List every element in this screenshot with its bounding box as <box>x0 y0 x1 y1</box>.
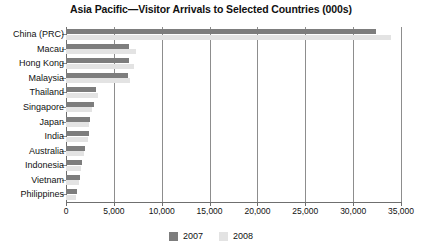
gridline <box>162 27 163 202</box>
bar-2007 <box>66 131 89 136</box>
bar-2008 <box>66 93 98 98</box>
bar-2007 <box>66 175 80 180</box>
x-axis-tick-label: 20,000 <box>244 206 270 216</box>
gridline <box>401 27 402 202</box>
bar-2007 <box>66 44 129 49</box>
legend-label: 2008 <box>233 231 253 241</box>
x-axis-line <box>66 202 402 203</box>
category-label: Australia <box>0 146 64 156</box>
category-label: Philippines <box>0 189 64 199</box>
bar-2008 <box>66 35 391 40</box>
bar-chart: Asia Pacific—Visitor Arrivals to Selecte… <box>0 0 422 251</box>
bar-2008 <box>66 49 136 54</box>
bar-2007 <box>66 102 94 107</box>
category-label: China (PRC) <box>0 29 64 39</box>
bar-2007 <box>66 146 85 151</box>
legend-label: 2007 <box>183 231 203 241</box>
bar-2008 <box>66 122 89 127</box>
gridline <box>210 27 211 202</box>
category-label: Hong Kong <box>0 58 64 68</box>
bar-2007 <box>66 73 128 78</box>
x-axis-tick-label: 0 <box>64 206 69 216</box>
x-axis-tick-label: 35,000 <box>388 206 414 216</box>
category-label: Singapore <box>0 102 64 112</box>
category-label: India <box>0 131 64 141</box>
x-axis-tick-label: 10,000 <box>149 206 175 216</box>
bar-2008 <box>66 151 84 156</box>
bar-2008 <box>66 166 81 171</box>
bar-2007 <box>66 29 376 34</box>
bar-2007 <box>66 117 90 122</box>
bar-2008 <box>66 195 76 200</box>
plot-area <box>66 27 401 202</box>
x-axis-tick-label: 25,000 <box>292 206 318 216</box>
category-label: Macau <box>0 44 64 54</box>
bar-2007 <box>66 58 129 63</box>
legend-swatch <box>169 232 178 241</box>
bar-2007 <box>66 189 77 194</box>
category-label: Vietnam <box>0 175 64 185</box>
legend-entry[interactable]: 2007 <box>169 231 203 241</box>
bar-2008 <box>66 64 134 69</box>
bar-2007 <box>66 87 96 92</box>
x-axis-tick-label: 30,000 <box>340 206 366 216</box>
gridline <box>353 27 354 202</box>
category-label: Malaysia <box>0 73 64 83</box>
x-axis-tick-label: 5,000 <box>103 206 124 216</box>
bar-2008 <box>66 180 79 185</box>
bar-2008 <box>66 78 130 83</box>
chart-legend: 20072008 <box>0 231 422 241</box>
category-label: Thailand <box>0 87 64 97</box>
legend-swatch <box>219 232 228 241</box>
bar-2008 <box>66 137 88 142</box>
gridline <box>257 27 258 202</box>
x-axis-tick-label: 15,000 <box>197 206 223 216</box>
bar-2007 <box>66 160 82 165</box>
category-label: Japan <box>0 117 64 127</box>
chart-title: Asia Pacific—Visitor Arrivals to Selecte… <box>0 3 422 15</box>
gridline <box>305 27 306 202</box>
legend-entry[interactable]: 2008 <box>219 231 253 241</box>
bar-2008 <box>66 107 92 112</box>
category-label: Indonesia <box>0 160 64 170</box>
